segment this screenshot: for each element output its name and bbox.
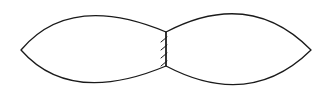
right-lens-shape xyxy=(166,14,311,85)
left-lens-shape xyxy=(21,16,166,83)
two-lens-diagram xyxy=(0,0,328,93)
diagram-canvas xyxy=(0,0,328,93)
